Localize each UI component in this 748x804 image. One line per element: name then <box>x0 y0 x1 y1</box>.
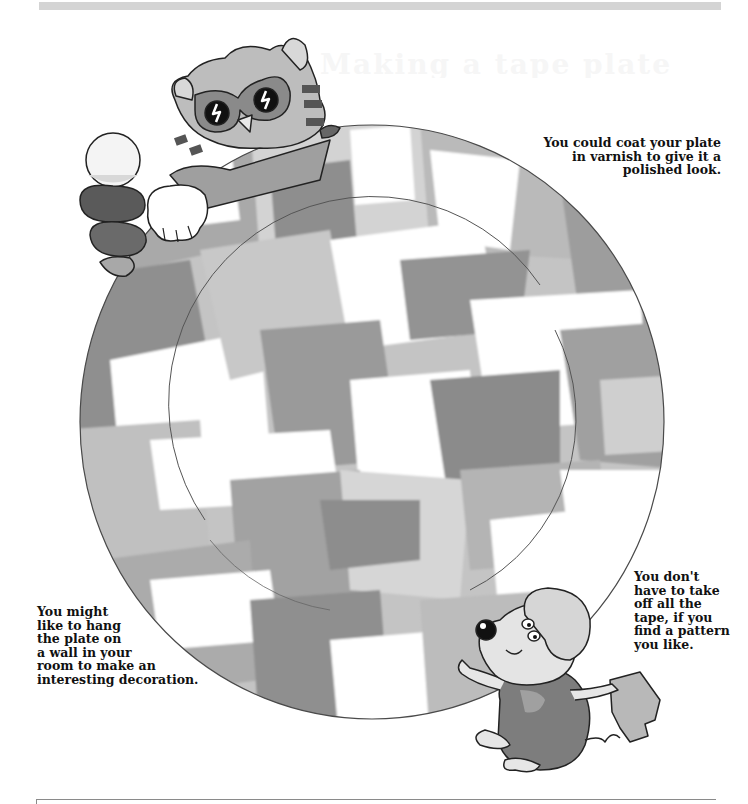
caption-line: a wall in your <box>37 646 198 660</box>
caption-line: like to hang <box>37 619 198 633</box>
caption-line: room to make an <box>37 659 198 673</box>
caption-line: you like. <box>634 638 730 652</box>
caption-line: You might <box>37 605 198 619</box>
caption-line: You don't <box>634 570 730 584</box>
caption-line: have to take <box>634 584 730 598</box>
bottom-rule-tick <box>36 799 37 804</box>
caption-line: the plate on <box>37 632 198 646</box>
caption-line: tape, if you <box>634 611 730 625</box>
caption-line: find a pattern <box>634 624 730 638</box>
caption-hang-tip: You might like to hang the plate on a wa… <box>37 605 198 686</box>
caption-line: off all the <box>634 597 730 611</box>
caption-line: interesting decoration. <box>37 673 198 687</box>
caption-varnish-tip: You could coat your plate in varnish to … <box>543 136 721 177</box>
caption-line: in varnish to give it a <box>543 150 721 164</box>
caption-tape-tip: You don't have to take off all the tape,… <box>634 570 730 651</box>
bottom-rule <box>36 799 716 800</box>
caption-line: You could coat your plate <box>543 136 721 150</box>
caption-line: polished look. <box>543 163 721 177</box>
